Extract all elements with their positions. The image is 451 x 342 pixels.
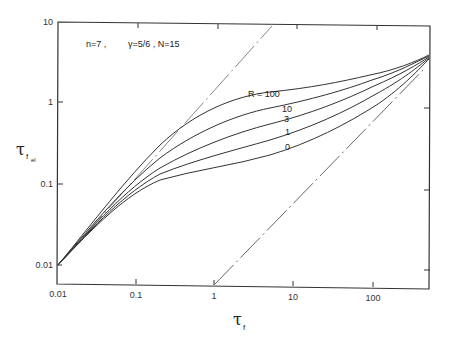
parameter-annotation-n: n=7 , — [86, 39, 106, 49]
reference-line-lower — [214, 68, 425, 285]
svg-text:f: f — [26, 152, 29, 161]
curve-label-r-100: R = 100 — [248, 89, 280, 99]
x-tick-label: 1 — [211, 291, 216, 301]
x-tick-label: 0.01 — [49, 289, 67, 299]
y-tick-label: 10 — [43, 17, 53, 27]
svg-text:τ: τ — [233, 310, 242, 329]
x-tick-label: 0.1 — [130, 290, 143, 300]
curve-r-0 — [58, 59, 429, 265]
svg-text:el: el — [31, 157, 36, 163]
plot-frame — [57, 22, 430, 289]
y-axis-title: τ f el — [16, 140, 36, 163]
y-tick-label: 1 — [48, 97, 53, 107]
parameter-annotation-gamma: γ=5/6 , N=15 — [128, 39, 180, 49]
curve-label-r-10: 10 — [282, 104, 292, 114]
curve-r-10 — [58, 56, 429, 265]
curve-label-r-3: 3 — [284, 114, 289, 124]
x-tick-label: 10 — [288, 292, 298, 302]
y-axis-ticks — [57, 102, 430, 270]
x-tick-label: 100 — [365, 293, 380, 303]
x-axis-ticks — [136, 23, 377, 287]
svg-text:τ: τ — [16, 140, 25, 159]
curve-label-r-1: 1 — [285, 127, 290, 137]
curve-label-r-0: 0 — [285, 142, 290, 152]
x-axis-title: τ f — [233, 310, 246, 332]
curve-r-3 — [58, 57, 429, 265]
y-tick-label: 0.1 — [40, 179, 53, 189]
svg-text:f: f — [243, 323, 246, 332]
curve-labels: R = 100 10 3 1 0 — [248, 89, 292, 152]
y-tick-label: 0.01 — [35, 260, 53, 270]
chart: 0.01 0.1 1 10 100 10 1 0.1 0.01 τ f τ f … — [0, 0, 451, 342]
